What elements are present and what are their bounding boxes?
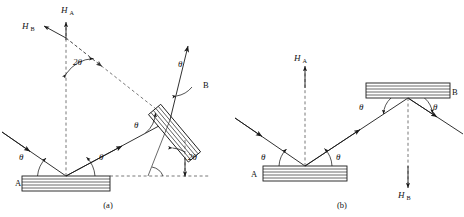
panel-b-hb-sub: B xyxy=(407,194,411,201)
panel-a-theta-exit: θ xyxy=(99,152,104,162)
panel-b-incident-beam xyxy=(235,118,305,166)
panel-a-ha-base: H xyxy=(60,5,68,15)
panel-b-theta-incident: θ xyxy=(261,152,266,162)
panel-a-crystal-b-label: B xyxy=(203,80,209,90)
panel-a-caption: (a) xyxy=(103,200,113,210)
panel-a-theta-incident: θ xyxy=(19,152,24,162)
panel-a-arc-theta-exit xyxy=(87,157,96,176)
panel-a-two-theta-bottom: 2θ xyxy=(188,152,198,162)
panel-a-crystal-a-slab xyxy=(22,176,110,191)
panel-a-two-theta-top: 2θ xyxy=(73,57,83,67)
panel-a-arc-theta-normal-b xyxy=(177,87,193,96)
panel-b-theta-incident-b: θ xyxy=(359,102,364,112)
panel-a-b-plane-extension xyxy=(148,120,170,176)
panel-a-normal-hb xyxy=(44,26,66,38)
panel-a-theta-normal-b: θ xyxy=(178,59,183,69)
panel-b-label-ha: H A xyxy=(293,53,308,64)
panel-a-theta-at-b: θ xyxy=(134,120,139,130)
panel-a-arc-baseline-corner xyxy=(152,167,163,176)
panel-a-hb-sub: B xyxy=(31,25,35,32)
panel-b-label-hb: H B xyxy=(397,190,411,201)
panel-b-reflected-beam-a-to-b xyxy=(305,98,408,166)
panel-b-crystal-b-slab xyxy=(366,83,450,98)
panel-b: A B H A H B θ θ θ θ (b) xyxy=(235,53,463,210)
panel-b-caption: (b) xyxy=(337,200,347,210)
panel-a-dashed-ray-to-b xyxy=(66,38,170,120)
panel-b-ha-sub: A xyxy=(303,57,308,64)
panel-a-hb-base: H xyxy=(21,21,29,31)
panel-a-incident-beam xyxy=(2,132,66,176)
panel-b-crystal-b-label: B xyxy=(452,87,458,97)
panel-a: A B H A H B θ θ θ θ 2θ 2θ (a) xyxy=(2,5,210,210)
panel-b-theta-exit: θ xyxy=(336,152,341,162)
panel-a-label-ha: H A xyxy=(60,5,75,16)
panel-a-crystal-a-label: A xyxy=(15,178,22,188)
figure-root: A B H A H B θ θ θ θ 2θ 2θ (a) xyxy=(0,0,464,217)
panel-a-outgoing-beam xyxy=(170,46,188,120)
panel-a-label-hb: H B xyxy=(21,21,35,32)
panel-b-crystal-a-slab xyxy=(263,166,347,181)
panel-a-ha-sub: A xyxy=(70,9,75,16)
panel-b-arc-theta-incident xyxy=(279,149,287,166)
panel-b-hb-base: H xyxy=(397,190,405,200)
panel-b-ha-base: H xyxy=(293,53,301,63)
panel-b-theta-exit-b: θ xyxy=(433,102,438,112)
diffraction-diagram: A B H A H B θ θ θ θ 2θ 2θ (a) xyxy=(0,0,464,217)
panel-b-crystal-a-label: A xyxy=(251,169,258,179)
panel-a-arc-theta-incident xyxy=(38,158,47,176)
